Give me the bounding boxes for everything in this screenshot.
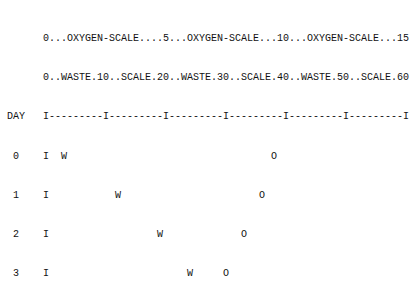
waste-scale-header: 0..WASTE.10..SCALE.20..WASTE.30..SCALE.4… — [1, 71, 409, 84]
plot-row-day-0: 0 I W O — [1, 150, 409, 163]
day-axis-line: DAY I---------I---------I---------I-----… — [1, 110, 409, 123]
plot-row-day-1: 1 I W O — [1, 189, 409, 202]
plot-row-day-2: 2 I W O — [1, 228, 409, 241]
plot-row-day-3: 3 I W O — [1, 267, 409, 280]
oxygen-scale-header: 0...OXYGEN-SCALE....5...OXYGEN-SCALE...1… — [1, 32, 409, 45]
terminal-plot-output: 0...OXYGEN-SCALE....5...OXYGEN-SCALE...1… — [1, 6, 409, 301]
